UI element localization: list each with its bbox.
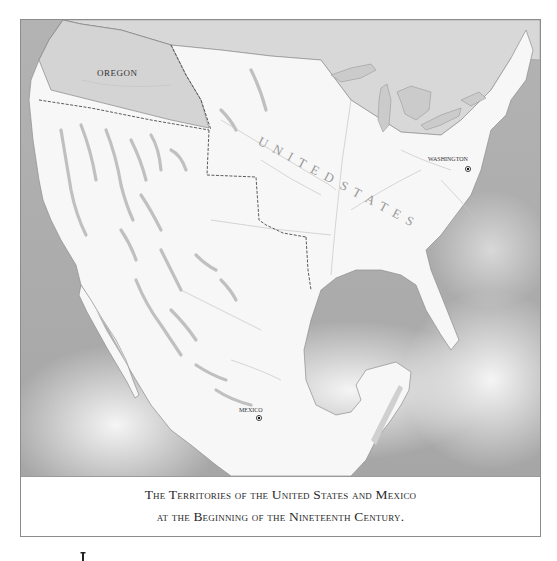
caption-line-1: The Territories of the United States and…	[21, 484, 540, 506]
map-caption: The Territories of the United States and…	[21, 477, 540, 536]
mexico-city-label: MEXICO	[239, 407, 263, 413]
washington-label: WASHINGTON	[428, 156, 469, 162]
washington-marker-icon	[465, 166, 470, 171]
historical-map: OREGON U N I T E D S T A T E S WASHINGTO…	[21, 20, 540, 476]
caption-line-2: at the Beginning of the Nineteenth Centu…	[21, 506, 540, 528]
map-figure: OREGON U N I T E D S T A T E S WASHINGTO…	[20, 19, 541, 537]
map-canvas: OREGON U N I T E D S T A T E S WASHINGTO…	[21, 20, 540, 477]
mexico-city-marker-icon	[256, 415, 261, 420]
drop-cap-fragment	[80, 552, 86, 561]
oregon-label: OREGON	[97, 68, 138, 78]
